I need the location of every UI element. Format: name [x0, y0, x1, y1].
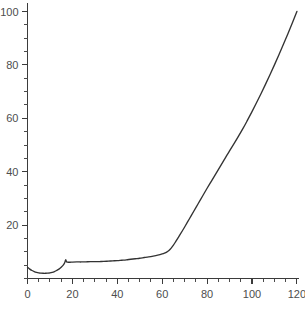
x-axis-major-ticks [28, 279, 297, 285]
x-tick-label-100: 100 [243, 288, 261, 300]
y-axis-group: 20406080100 [0, 3, 27, 278]
x-axis-group: 020406080100120 [24, 279, 305, 300]
chart-container: 20406080100 020406080100120 [0, 0, 305, 311]
y-axis-tick-labels: 20406080100 [0, 6, 18, 232]
x-tick-label-120: 120 [288, 288, 305, 300]
y-tick-label-60: 60 [6, 112, 18, 124]
x-tick-label-60: 60 [156, 288, 168, 300]
x-axis-tick-labels: 020406080100120 [24, 288, 305, 300]
line-chart: 20406080100 020406080100120 [0, 0, 305, 311]
y-tick-label-100: 100 [0, 6, 18, 18]
y-tick-label-40: 40 [6, 166, 18, 178]
x-tick-label-40: 40 [111, 288, 123, 300]
x-tick-label-0: 0 [24, 288, 30, 300]
y-tick-label-20: 20 [6, 219, 18, 231]
x-tick-label-80: 80 [201, 288, 213, 300]
x-tick-label-20: 20 [66, 288, 78, 300]
data-line-curve [28, 12, 297, 274]
y-axis-major-ticks [22, 12, 28, 226]
data-series-group [28, 12, 297, 274]
y-tick-label-80: 80 [6, 59, 18, 71]
